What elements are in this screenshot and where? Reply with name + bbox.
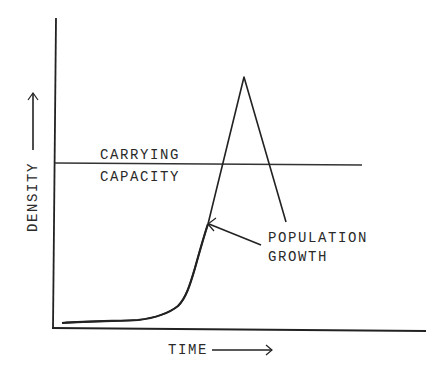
- population-growth-label-line1: POPULATION: [268, 231, 368, 245]
- diagram-svg: [0, 0, 447, 374]
- population-growth-curve-base: [62, 224, 208, 323]
- x-axis: [52, 328, 426, 331]
- population-growth-label-line2: GROWTH: [268, 250, 328, 264]
- time-arrow-icon: [212, 345, 272, 355]
- density-arrow-icon: [28, 93, 38, 150]
- carrying-capacity-label-line2: CAPACITY: [100, 170, 180, 184]
- x-axis-label: TIME: [168, 343, 208, 357]
- y-axis-label-group: DENSITY: [26, 162, 40, 232]
- diagram-canvas: DENSITY TIME CARRYING CAPACITY POPULATIO…: [0, 0, 447, 374]
- population-growth-curve: [62, 77, 286, 323]
- carrying-capacity-line: [55, 163, 362, 165]
- arrow-icon: [208, 218, 261, 245]
- y-axis: [53, 18, 56, 328]
- y-axis-label: DENSITY: [26, 162, 40, 232]
- carrying-capacity-label-line1: CARRYING: [100, 148, 180, 162]
